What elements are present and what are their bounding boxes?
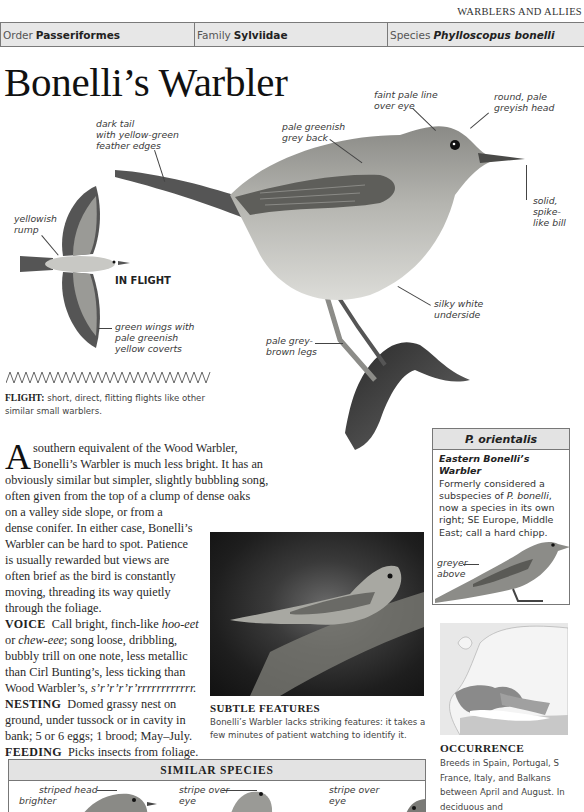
subtle-features-photo xyxy=(210,532,424,696)
leader-line xyxy=(315,343,343,344)
annotation-underside: silky whiteunderside xyxy=(434,298,483,320)
in-flight-label: IN FLIGHT xyxy=(115,275,171,286)
leader-line xyxy=(98,328,112,329)
taxonomy-species: Species Phylloscopus bonelli xyxy=(388,23,584,46)
annotation-wings: green wings withpale greenishyellow cove… xyxy=(115,321,195,354)
leader-line xyxy=(526,165,527,200)
flight-label: FLIGHT: xyxy=(5,393,44,403)
taxonomy-bar: Order Passeriformes Family Sylviidae Spe… xyxy=(0,22,584,47)
species-value: Phylloscopus bonelli xyxy=(433,29,554,41)
similar-species-box: SIMILAR SPECIES striped head brighter st… xyxy=(8,759,426,812)
flight-note: FLIGHT: short, direct, flitting flights … xyxy=(5,392,205,418)
annotation-back: pale greenishgrey back xyxy=(282,121,345,143)
family-label: Family xyxy=(197,29,231,41)
leader-line xyxy=(97,790,117,791)
family-value: Sylviidae xyxy=(234,29,288,41)
taxonomy-family: Family Sylviidae xyxy=(195,23,388,46)
annotation-greyer-above: greyerabove xyxy=(437,557,468,579)
leader-line xyxy=(463,564,479,565)
annotation-dark-tail: dark tailwith yellow-greenfeather edges xyxy=(96,118,179,151)
feeding-section: FEEDING Picks insects from foliage. xyxy=(5,744,268,760)
similar-species-heading: SIMILAR SPECIES xyxy=(9,760,425,781)
flight-pattern-icon xyxy=(6,370,211,384)
annotation-bill: solid,spike-like bill xyxy=(533,195,566,228)
related-species-box: P. orientalis Eastern Bonelli’s Warbler … xyxy=(432,428,570,605)
order-label: Order xyxy=(3,29,33,41)
photo-caption-heading: SUBTLE FEATURES xyxy=(210,702,320,714)
leader-line xyxy=(222,790,257,791)
related-species-subtitle: Eastern Bonelli’s Warbler xyxy=(439,453,563,478)
occurrence-text: Breeds in Spain, Portugal, S France, Ita… xyxy=(440,756,584,812)
running-head: WARBLERS AND ALLIES xyxy=(457,6,582,17)
annotation-legs: pale grey-brown legs xyxy=(266,335,317,357)
page-title: Bonelli’s Warbler xyxy=(4,58,287,106)
photo-caption-text: Bonelli’s Warbler lacks striking feature… xyxy=(210,716,430,741)
annotation-head: round, palegreyish head xyxy=(494,91,554,113)
distribution-map xyxy=(440,623,568,735)
order-value: Passeriformes xyxy=(36,29,120,41)
drop-cap: A xyxy=(5,443,31,471)
similar-species-illustrations xyxy=(9,782,425,812)
annotation-rump: yellowishrump xyxy=(14,213,57,235)
taxonomy-order: Order Passeriformes xyxy=(1,23,195,46)
annotation-eye-line: faint pale lineover eye xyxy=(374,89,438,111)
species-label: Species xyxy=(390,29,430,41)
occurrence-heading: OCCURRENCE xyxy=(440,742,524,754)
related-species-heading: P. orientalis xyxy=(433,429,569,450)
